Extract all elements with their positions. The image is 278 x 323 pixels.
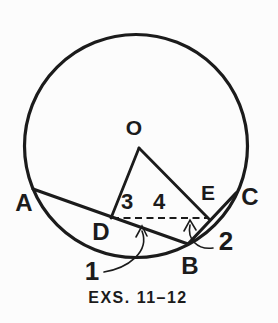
label-angle-4: 4 [153, 189, 166, 214]
label-point-a: A [15, 189, 32, 216]
label-point-e: E [201, 181, 215, 204]
geometry-figure: O A B C D E 1 2 3 4 EXS. 11–12 [0, 0, 278, 323]
segment-oe [139, 148, 209, 219]
figure-caption: EXS. 11–12 [88, 289, 188, 306]
geometry-figure-canvas: O A B C D E 1 2 3 4 EXS. 11–12 [0, 0, 278, 323]
leader-line-angle-1 [104, 231, 144, 272]
label-point-o: O [126, 116, 142, 139]
label-point-b: B [181, 252, 198, 279]
label-angle-3: 3 [121, 189, 133, 214]
label-point-c: C [241, 183, 258, 210]
label-point-d: D [92, 218, 109, 245]
label-angle-2: 2 [219, 226, 233, 256]
label-angle-1: 1 [85, 256, 99, 286]
